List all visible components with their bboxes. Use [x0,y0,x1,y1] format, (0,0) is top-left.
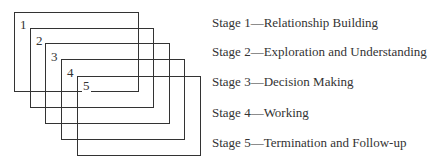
stage-4-number: 4 [66,66,75,79]
stage-1-label: Stage 1—Relationship Building [212,16,378,29]
stage-5-label: Stage 5—Termination and Follow-up [212,136,406,149]
stage-3-label: Stage 3—Decision Making [212,75,354,88]
stage-1-number: 1 [19,18,28,31]
stage-5-number: 5 [82,79,91,92]
stage-2-number: 2 [35,34,44,47]
stage-2-label: Stage 2—Exploration and Understanding [212,45,427,58]
stage-4-label: Stage 4—Working [212,106,309,119]
stages-diagram: 1 2 3 4 5 Stage 1—Relationship Building … [0,0,440,166]
stage-3-number: 3 [50,50,59,63]
stage-5-box [77,76,201,156]
